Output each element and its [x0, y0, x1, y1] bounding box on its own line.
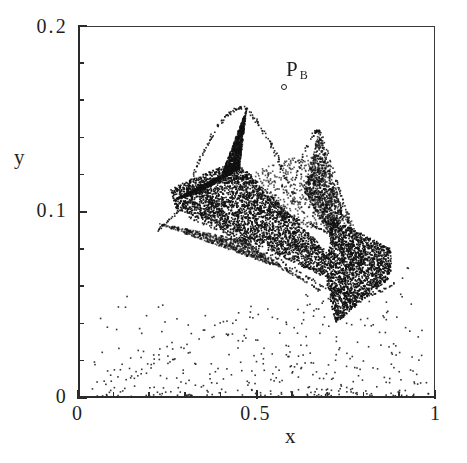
annotation-pb-text: P: [286, 57, 298, 81]
x-axis-title: x: [285, 424, 296, 449]
x-tick-0.8: [363, 392, 365, 398]
annotation-pb: PB: [286, 57, 306, 82]
x-tick-label-0: 0: [62, 402, 94, 425]
x-tick-0.5: [256, 390, 258, 399]
y-tick-label-0.1: 0.1: [4, 199, 68, 222]
y-tick-0.12: [78, 174, 84, 176]
y-tick-0.10: [78, 211, 87, 213]
y-tick-0.06: [78, 285, 84, 287]
annotation-pb-subscript: B: [300, 68, 308, 82]
y-tick-label-0: 0: [4, 385, 68, 408]
y-tick-0.08: [78, 248, 84, 250]
x-tick-0.7: [327, 392, 329, 398]
x-tick-0.9: [398, 392, 400, 398]
y-tick-label-0.2: 0.2: [4, 15, 68, 38]
y-tick-0.14: [78, 137, 84, 139]
x-tick-0.4: [220, 392, 222, 398]
y-tick-0.18: [78, 62, 84, 64]
x-tick-0.1: [113, 392, 115, 398]
y-tick-0.16: [78, 99, 84, 101]
x-tick-0.3: [184, 392, 186, 398]
annotation-pb-marker-icon: [281, 84, 287, 90]
y-tick-0.20: [78, 25, 87, 27]
x-tick-0.0: [77, 390, 79, 399]
x-tick-label-0.5: 0.5: [232, 402, 280, 425]
y-tick-0.00: [78, 397, 87, 399]
y-tick-0.02: [78, 360, 84, 362]
x-tick-1.0: [434, 390, 436, 399]
y-tick-0.04: [78, 323, 84, 325]
plot-frame: [78, 26, 435, 398]
x-tick-0.6: [291, 392, 293, 398]
figure-root: 0.2 0.1 0 0 0.5 1 y x PB: [0, 0, 467, 463]
y-axis-title: y: [14, 145, 25, 170]
x-tick-0.2: [148, 392, 150, 398]
x-tick-label-1: 1: [420, 402, 452, 425]
